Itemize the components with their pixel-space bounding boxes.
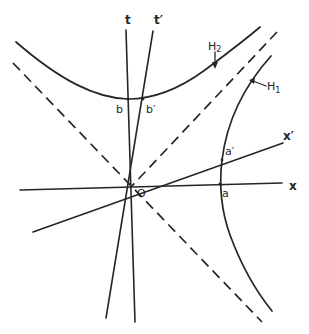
h1-arrow <box>253 81 266 86</box>
a-label: a <box>222 187 229 200</box>
t-axis-label: t <box>125 13 131 27</box>
point-a-prime <box>221 159 224 162</box>
point-b-prime <box>142 98 145 101</box>
t-prime-axis <box>106 31 153 318</box>
x-prime-axis <box>33 143 283 232</box>
h2-arrowhead-icon <box>212 62 218 69</box>
t-axis <box>126 30 135 322</box>
spacetime-diagram: x x′ t t′ O a a′ b b′ H2 H1 <box>0 0 309 334</box>
b-label: b <box>116 103 123 116</box>
h1-label-subscript: 1 <box>275 86 280 95</box>
hyperbola-h2 <box>16 27 260 99</box>
origin-label: O <box>137 187 146 200</box>
point-a <box>218 182 221 185</box>
h2-label: H2 <box>208 40 221 54</box>
h1-label-main: H <box>267 80 275 93</box>
h2-label-subscript: 2 <box>216 45 221 54</box>
x-axis-label: x <box>289 179 297 193</box>
x-axis <box>20 183 282 190</box>
a-prime-label: a′ <box>225 145 235 158</box>
h2-label-main: H <box>208 40 216 53</box>
b-prime-label: b′ <box>146 103 156 116</box>
x-prime-axis-label: x′ <box>283 129 294 143</box>
h1-label: H1 <box>267 80 280 95</box>
t-prime-axis-label: t′ <box>154 13 163 27</box>
point-b <box>126 97 129 100</box>
